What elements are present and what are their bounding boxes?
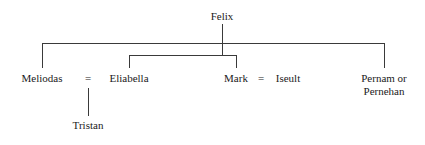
connector-drop-eliabella [129, 55, 130, 68]
node-tristan-label: Tristan [73, 119, 104, 131]
node-felix: Felix [211, 10, 234, 23]
node-iseult: Iseult [276, 72, 300, 85]
connector-drop-pernam [384, 43, 385, 68]
connector-sibling-bar-inner [129, 55, 237, 56]
node-pernam: Pernam or Pernehan [361, 72, 407, 98]
node-eliabella: Eliabella [109, 72, 148, 85]
node-mark: Mark [224, 72, 248, 85]
connector-drop-center [222, 43, 223, 55]
node-meliodas-label: Meliodas [22, 72, 63, 84]
node-eliabella-label: Eliabella [109, 72, 148, 84]
node-tristan: Tristan [73, 119, 104, 132]
connector-drop-mark [236, 55, 237, 68]
marriage-symbol-mark-iseult: = [258, 72, 264, 85]
node-pernam-label-line1: Pernam or [361, 72, 407, 84]
node-iseult-label: Iseult [276, 72, 300, 84]
node-felix-label: Felix [211, 10, 234, 22]
node-mark-label: Mark [224, 72, 248, 84]
node-pernam-label-line2: Pernehan [361, 85, 407, 98]
connector-sibling-bar-main [42, 43, 384, 44]
connector-felix-stem [222, 24, 223, 43]
node-meliodas: Meliodas [22, 72, 63, 85]
connector-drop-meliodas [42, 43, 43, 68]
family-tree-diagram: Felix Meliodas = Eliabella Mark = Iseult… [0, 0, 425, 145]
marriage-symbol-meliodas-eliabella: = [85, 72, 91, 85]
connector-drop-tristan [88, 88, 89, 116]
